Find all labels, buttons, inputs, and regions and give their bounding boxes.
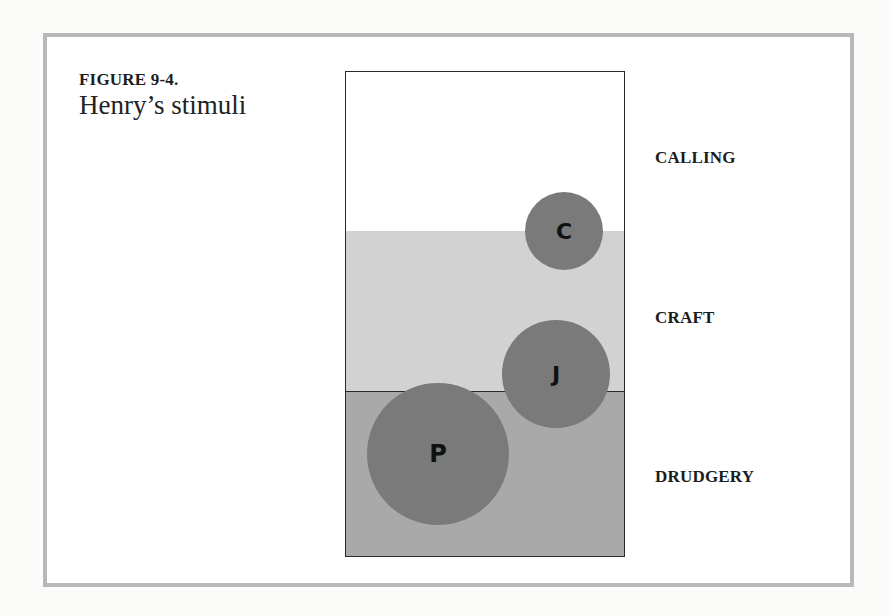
figure-number: FIGURE 9-4. — [79, 70, 178, 90]
circle-j-label: J — [552, 362, 560, 387]
label-craft: CRAFT — [655, 308, 715, 328]
circle-p-label: P — [429, 440, 447, 468]
circle-j: J — [502, 320, 610, 428]
circle-c: C — [525, 192, 603, 270]
circle-p: P — [367, 383, 509, 525]
label-calling: CALLING — [655, 148, 736, 168]
stimuli-diagram: C J P — [345, 71, 625, 557]
circle-c-label: C — [556, 219, 572, 244]
figure-title: Henry’s stimuli — [79, 90, 246, 121]
label-drudgery: DRUDGERY — [655, 467, 754, 487]
